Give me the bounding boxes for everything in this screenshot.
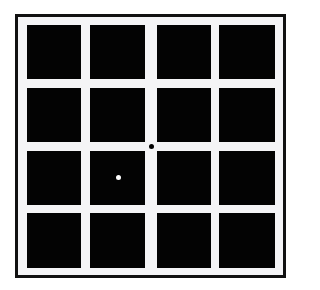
grid-square-r1-c1	[27, 25, 81, 79]
grid-square-r4-c2	[90, 213, 145, 268]
grid-square-r1-c3	[157, 25, 211, 79]
grid-square-r4-c1	[27, 213, 81, 268]
grid-square-r2-c4	[219, 88, 275, 142]
grid-square-r4-c4	[219, 213, 275, 268]
white-dot	[116, 175, 121, 180]
grid-square-r3-c3	[157, 151, 211, 205]
grid-square-r2-c2	[90, 88, 145, 142]
grid-square-r3-c1	[27, 151, 81, 205]
grid-square-r2-c3	[157, 88, 211, 142]
grid-square-r4-c3	[157, 213, 211, 268]
grid-square-r3-c4	[219, 151, 275, 205]
grid-square-r2-c1	[27, 88, 81, 142]
black-dot	[149, 144, 154, 149]
grid-square-r1-c2	[90, 25, 145, 79]
grid-square-r1-c4	[219, 25, 275, 79]
